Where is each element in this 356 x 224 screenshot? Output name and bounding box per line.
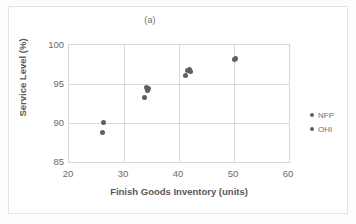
data-point [142, 95, 147, 100]
x-axis-label: Finish Goods Inventory (units) [48, 186, 310, 197]
y-axis-tick-label: 100 [24, 39, 64, 50]
gridline-vertical [234, 45, 235, 162]
x-axis-tick-label: 60 [268, 168, 308, 179]
gridline-vertical [179, 45, 180, 162]
data-point [100, 130, 105, 135]
legend-item[interactable]: NFP [310, 108, 354, 122]
legend-item-label: OHI [318, 125, 332, 134]
chart-title: (a) [0, 15, 300, 25]
x-axis-tick-label: 30 [103, 168, 143, 179]
legend-item[interactable]: OHI [310, 122, 354, 136]
data-point [183, 73, 188, 78]
y-axis-tick-label: 90 [24, 117, 64, 128]
data-point [101, 120, 106, 125]
plot-area [68, 44, 290, 163]
y-axis-tick-labels: 859095100 [22, 44, 64, 163]
y-axis-tick-label: 95 [24, 78, 64, 89]
x-axis-tick-labels: 2030405060 [68, 168, 290, 182]
y-axis-tick-label: 85 [24, 156, 64, 167]
legend-marker-dot-icon [310, 113, 314, 117]
x-axis-tick-label: 20 [48, 168, 88, 179]
scatter-chart-figure: (a) Service Level (%) 859095100 20304050… [0, 0, 356, 224]
legend-item-label: NFP [318, 111, 334, 120]
x-axis-tick-label: 40 [158, 168, 198, 179]
legend-marker-dot-icon [310, 127, 314, 131]
data-point [232, 57, 237, 62]
data-point [145, 88, 150, 93]
gridline-vertical [124, 45, 125, 162]
chart-legend: NFPOHI [310, 108, 354, 136]
x-axis-tick-label: 50 [213, 168, 253, 179]
